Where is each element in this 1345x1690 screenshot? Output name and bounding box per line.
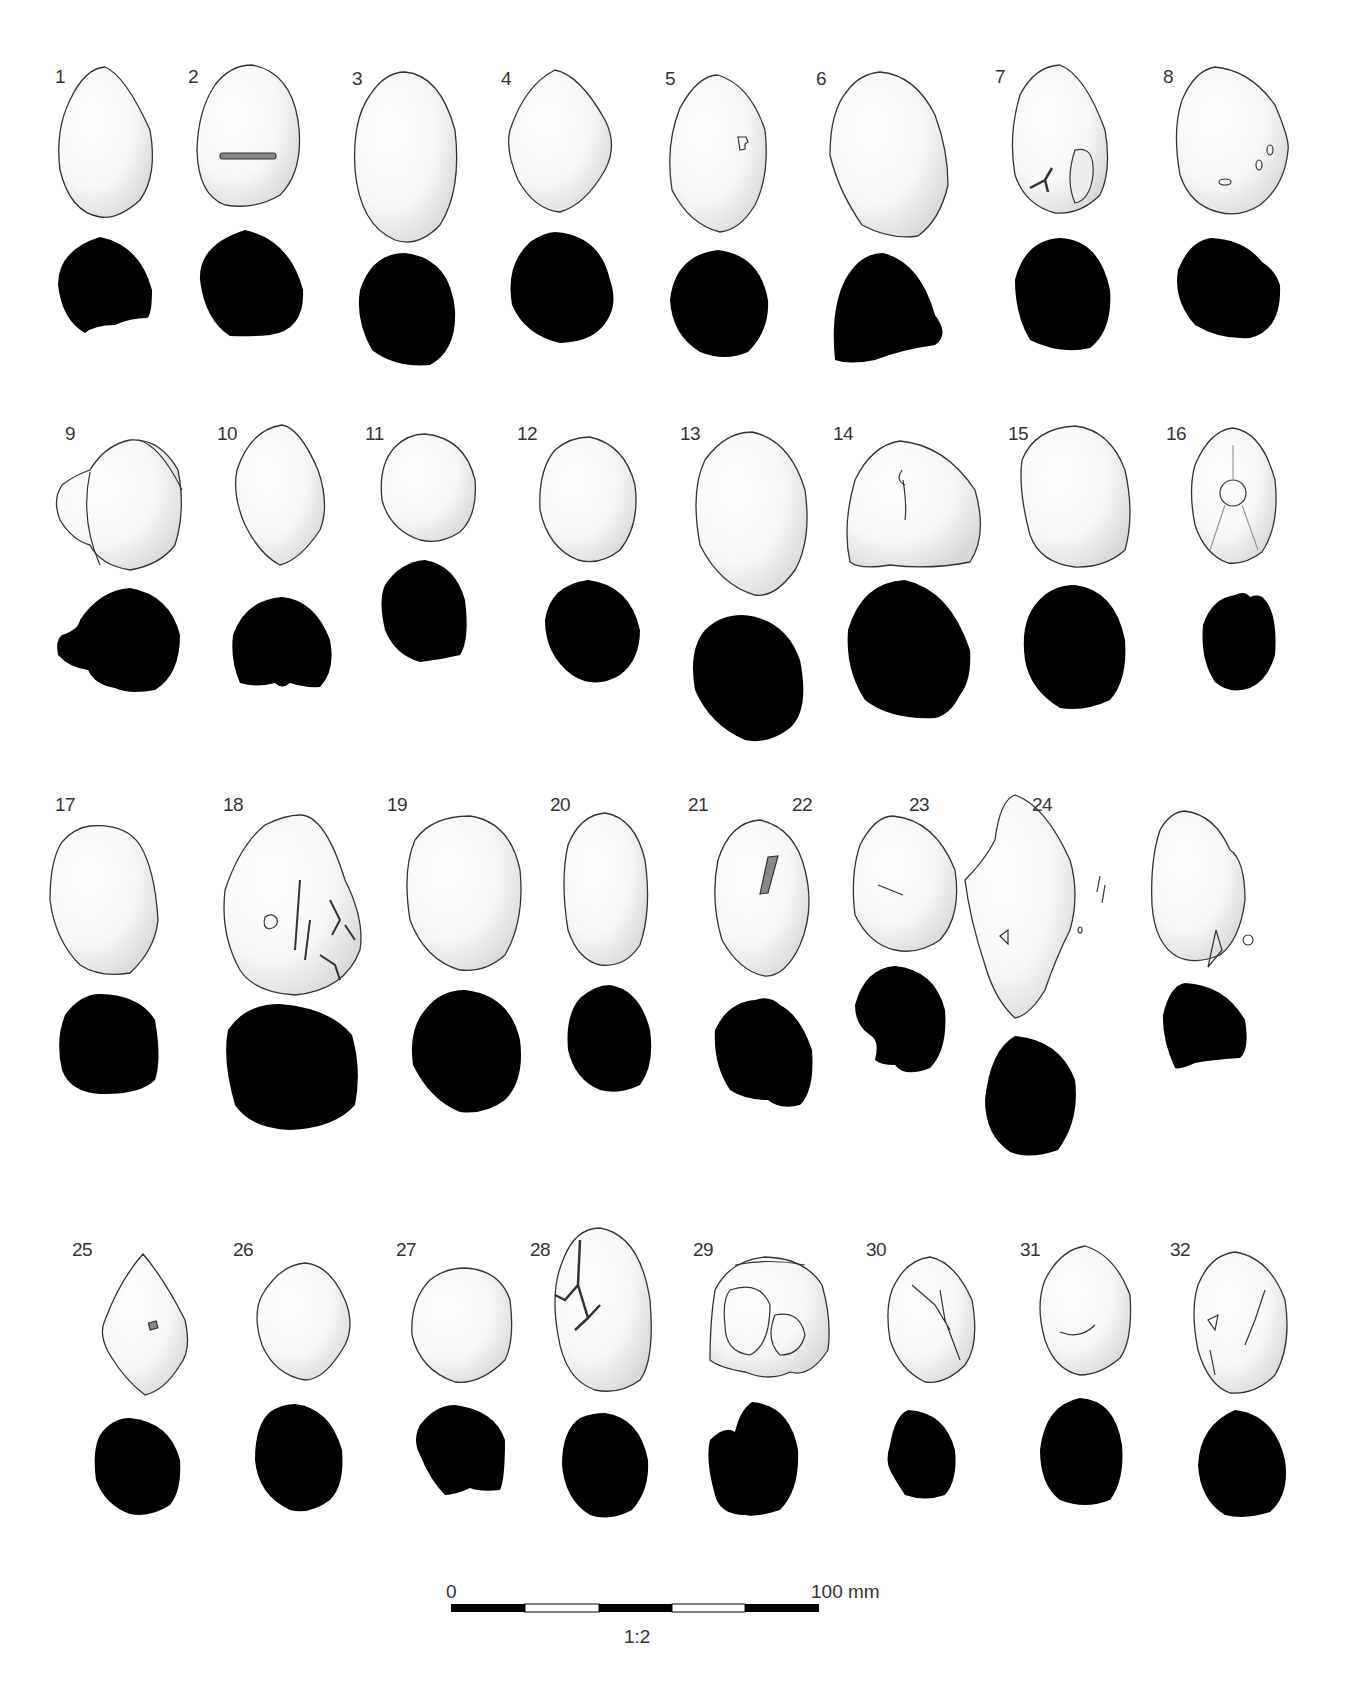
item-number-label: 6 xyxy=(816,69,826,88)
pebble-28-plan xyxy=(555,1228,651,1391)
pebble-30-plan xyxy=(888,1257,975,1382)
item-number-label: 25 xyxy=(72,1240,92,1259)
pebble-6-section xyxy=(834,253,943,363)
item-number-label: 24 xyxy=(1032,795,1052,814)
pebble-15-plan xyxy=(1021,426,1130,567)
scale-bar xyxy=(451,1604,819,1612)
item-number-label: 5 xyxy=(665,69,675,88)
pebble-26-section xyxy=(255,1404,343,1511)
item-number-label: 17 xyxy=(55,795,75,814)
item-number-label: 20 xyxy=(550,795,570,814)
item-number-label: 23 xyxy=(909,795,929,814)
pebble-27-plan xyxy=(412,1268,512,1382)
pebble-28-section xyxy=(562,1413,648,1518)
scale-start-label: 0 xyxy=(446,1582,457,1601)
pebble-12-plan xyxy=(540,437,636,562)
pebble-19-section xyxy=(412,990,521,1113)
pebble-12-section xyxy=(545,580,640,683)
pebble-18-plan xyxy=(224,815,361,995)
pebble-22-section xyxy=(855,966,945,1072)
pebble-26-plan xyxy=(257,1263,350,1380)
item-number-label: 26 xyxy=(233,1240,253,1259)
item-number-label: 10 xyxy=(217,424,237,443)
scale-segment-3 xyxy=(599,1604,672,1612)
pebble-18-section xyxy=(226,1004,358,1130)
pebble-1-section xyxy=(58,237,152,333)
item-number-label: 18 xyxy=(223,795,243,814)
pebble-15-section xyxy=(1024,585,1126,709)
item-number-label: 4 xyxy=(501,69,511,88)
item-number-label: 7 xyxy=(995,67,1005,86)
item-number-label: 1 xyxy=(55,67,65,86)
pebble-20-plan xyxy=(564,813,648,965)
drawings-canvas xyxy=(0,0,1345,1690)
scale-segment-4 xyxy=(672,1604,745,1612)
pebble-31-plan xyxy=(1040,1246,1131,1375)
pebble-29-section xyxy=(708,1402,798,1516)
pebble-24-section xyxy=(1163,983,1247,1068)
figure-plate: 1234567891011121314151617181920212223242… xyxy=(0,0,1345,1690)
pebble-9-section xyxy=(57,588,180,692)
pebble-8-section xyxy=(1177,238,1280,338)
pebble-5-plan xyxy=(670,75,766,232)
pebble-16-plan xyxy=(1192,428,1277,563)
item-number-label: 32 xyxy=(1170,1240,1190,1259)
item-number-label: 2 xyxy=(188,67,198,86)
pebble-13-section xyxy=(693,615,803,741)
pebble-2-groove xyxy=(220,153,276,159)
pebble-19-plan xyxy=(407,816,521,970)
item-number-label: 12 xyxy=(517,424,537,443)
item-number-label: 9 xyxy=(65,424,75,443)
item-number-label: 22 xyxy=(792,795,812,814)
pebble-10-plan xyxy=(236,425,325,565)
item-number-label: 29 xyxy=(693,1240,713,1259)
item-number-label: 21 xyxy=(688,795,708,814)
item-number-label: 27 xyxy=(396,1240,416,1259)
pebble-11-plan xyxy=(381,434,475,541)
pebble-13-plan xyxy=(696,432,807,595)
item-number-label: 8 xyxy=(1163,67,1173,86)
pebble-25-plan xyxy=(102,1254,187,1395)
pebble-2-plan xyxy=(197,65,300,206)
scale-segment-2 xyxy=(525,1604,599,1612)
item-number-label: 16 xyxy=(1166,424,1186,443)
pebble-17-section xyxy=(59,994,158,1094)
scale-end-label: 100 mm xyxy=(811,1582,880,1601)
pebble-32-plan xyxy=(1194,1252,1287,1393)
pebble-16-section xyxy=(1203,593,1276,691)
pebble-30-section xyxy=(888,1410,956,1499)
item-number-label: 3 xyxy=(352,69,362,88)
pebble-24-plan xyxy=(1152,811,1245,961)
pebble-14-plan xyxy=(847,441,980,567)
item-number-label: 15 xyxy=(1008,424,1028,443)
pebble-3-plan xyxy=(355,72,457,242)
item-number-label: 19 xyxy=(387,795,407,814)
pebble-11-section xyxy=(382,560,467,662)
pebble-9-plan xyxy=(56,440,181,570)
pebble-20-section xyxy=(568,985,652,1092)
pebble-4-section xyxy=(510,232,613,343)
pebble-3-section xyxy=(359,253,455,365)
pebble-17-plan xyxy=(50,826,158,975)
pebble-5-section xyxy=(670,250,768,357)
item-number-label: 28 xyxy=(530,1240,550,1259)
pebble-23-section xyxy=(985,1036,1076,1156)
scale-segment-1 xyxy=(451,1604,525,1612)
pebble-21-section xyxy=(715,998,813,1106)
item-number-label: 13 xyxy=(680,424,700,443)
pebble-2-section xyxy=(200,230,303,336)
pebble-21-plan xyxy=(715,820,809,976)
pebble-6-plan xyxy=(830,72,948,237)
item-number-label: 11 xyxy=(365,424,384,443)
scale-segment-5 xyxy=(745,1604,819,1612)
pebble-25-pit xyxy=(148,1321,158,1330)
scale-ratio-label: 1:2 xyxy=(624,1627,650,1646)
item-number-label: 14 xyxy=(833,424,853,443)
pebble-31-section xyxy=(1040,1398,1123,1505)
pebble-23-plan xyxy=(965,795,1075,1018)
pebble-14-section xyxy=(848,580,971,718)
pebble-27-section xyxy=(416,1405,505,1495)
item-number-label: 30 xyxy=(866,1240,886,1259)
pebble-22-plan xyxy=(853,816,956,951)
pebble-25-section xyxy=(95,1418,181,1515)
